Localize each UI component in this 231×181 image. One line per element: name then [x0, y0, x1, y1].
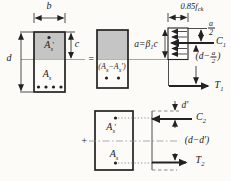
label-as-bottom: As [110, 149, 119, 161]
tension-steel-dot [59, 85, 62, 88]
label-b: b [47, 1, 52, 11]
tension-steel-dot [52, 85, 55, 88]
equals-sign: = [88, 54, 95, 64]
label-d: d [7, 53, 12, 63]
tension-steel-dot [37, 85, 40, 88]
label-d-minus-d-prime: (d−d′) [185, 136, 209, 146]
tension-steel-dot [44, 85, 47, 88]
d-dimension [20, 32, 33, 92]
label-as-top: As [43, 69, 52, 81]
label-d-prime: d′ [182, 101, 189, 111]
label-c2: C2 [196, 112, 206, 124]
label-as-prime-bottom: As′ [106, 122, 115, 134]
label-c: c [75, 39, 79, 49]
tension-steel-dot [114, 161, 117, 164]
label-t2: T2 [196, 155, 205, 167]
label-d-minus-a-half: (d−a2) [196, 50, 221, 65]
label-c1: C1 [216, 36, 226, 48]
label-a-over-2: a2 [207, 20, 215, 37]
label-as-difference: (As−As′) [98, 63, 125, 73]
plus-sign: + [81, 136, 88, 146]
compression-steel-dot [114, 116, 117, 119]
c-dimension [66, 32, 75, 58]
tension-steel-dot [105, 76, 108, 79]
beam-stress-block-diagram: b d c As′ As = (As−As′) a=β1c 0.85fck a2… [0, 0, 231, 181]
stress-magnitude-dimension [168, 13, 188, 22]
label-t1: T1 [215, 80, 224, 92]
a-half-dimension [188, 29, 207, 42]
bottom-section [95, 111, 133, 170]
label-as-prime-top: As′ [44, 40, 53, 52]
tension-steel-dot [117, 76, 120, 79]
compression-zone [97, 30, 128, 60]
middle-section [97, 30, 128, 88]
label-085fck: 0.85fck [180, 2, 203, 13]
b-dimension [34, 13, 65, 23]
label-a-equals-beta1-c: a=β1c [134, 40, 157, 51]
section-outline [95, 111, 133, 170]
